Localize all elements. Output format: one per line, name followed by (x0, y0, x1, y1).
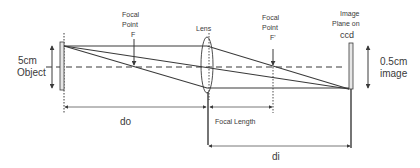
focal-point-f-prime-label-1: Focal (262, 14, 279, 22)
di-label: di (272, 151, 280, 163)
image-size-label: 0.5cm (380, 56, 407, 68)
focal-point-f-label-1: Focal (122, 11, 139, 19)
focal-length-label: Focal Length (215, 118, 255, 126)
image-plane-label-2: Plane on (332, 20, 360, 28)
do-label: do (120, 116, 131, 128)
focal-point-f-label-3: F (131, 31, 135, 39)
image-label: image (380, 68, 407, 80)
object-plate (60, 42, 64, 90)
focal-point-f-label-2: Point (122, 21, 138, 29)
image-plane-label-3: ccd (340, 30, 354, 40)
image-plane-label-1: Image (340, 10, 359, 18)
image-plane-ccd (349, 43, 353, 89)
lens-label: Lens (196, 25, 211, 33)
lens-shape (201, 37, 213, 93)
object-size-label: 5cm (18, 55, 37, 67)
focal-point-f-prime-label-2: Point (262, 24, 278, 32)
lens-diagram: 5cm Object Focal Point F Lens Focal Poin… (0, 0, 420, 168)
object-label: Object (17, 67, 46, 79)
focal-point-f-prime-label-3: F' (270, 34, 276, 42)
